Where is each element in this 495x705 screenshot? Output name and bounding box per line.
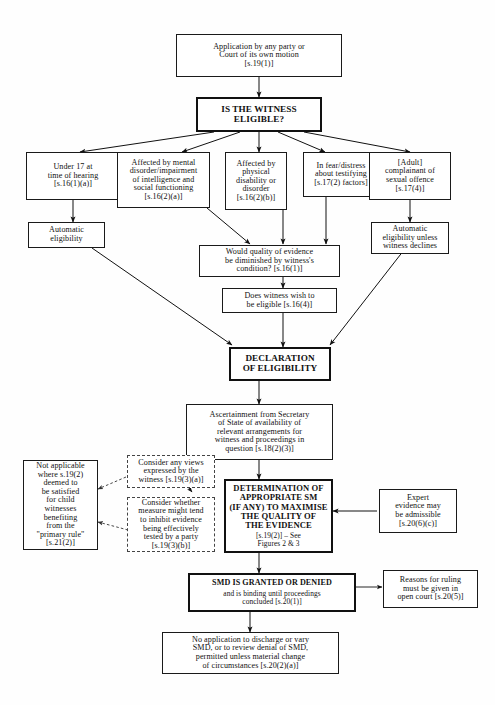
node-determination-label: DETERMINATION OF APPROPRIATE SM (IF ANY)… [224,483,333,531]
node-adult-complainant: [Adult] complainant of sexual offence [s… [369,152,451,200]
node-expert-evidence-label: Expert evidence may be admissible [s.20(… [380,493,456,529]
flowchart-canvas: Application by any party or Court of its… [0,0,495,705]
node-witness-wish-label: Does witness wish to be eligible [s.16(4… [223,291,336,310]
node-physical-disability-label: Affected by physical disability or disor… [226,159,286,204]
node-determination: DETERMINATION OF APPROPRIATE SM (IF ANY)… [224,479,333,553]
node-consider-measure: Consider whether measure might tend to i… [127,497,215,552]
node-automatic-eligibility: Automatic eligibility [28,222,105,248]
node-determination-sublabel: [s.19(2)] – See Figures 2 & 3 [224,531,333,549]
node-reasons-for-ruling: Reasons for ruling must be given in open… [383,570,478,608]
node-not-applicable: Not applicable where s.19(2) deemed to b… [23,460,98,550]
node-mental-disorder-label: Affected by mental disorder/impairment o… [118,158,209,203]
node-no-application: No application to discharge or vary SMD,… [162,632,339,674]
node-physical-disability: Affected by physical disability or disor… [225,152,287,210]
node-fear-distress-label: In fear/distress about testifying [s.17(… [304,161,378,189]
node-automatic-unless-declines-label: Automatic eligibility unless witness dec… [372,224,448,252]
node-application: Application by any party or Court of its… [176,34,342,77]
node-smd-granted-label: SMD IS GRANTED OR DENIED [188,578,356,589]
node-consider-views-label: Consider any views expressed by the witn… [128,458,214,486]
node-automatic-eligibility-label: Automatic eligibility [29,225,104,244]
node-reasons-for-ruling-label: Reasons for ruling must be given in open… [384,575,477,603]
node-witness-wish: Does witness wish to be eligible [s.16(4… [222,288,337,313]
node-under-17: Under 17 at time of hearing [s.16(1)(a)] [26,152,120,200]
node-ascertainment: Ascertainment from Secretary of State of… [186,404,333,460]
node-mental-disorder: Affected by mental disorder/impairment o… [117,152,210,208]
node-smd-granted-sublabel: and is binding until proceedings conclud… [188,589,356,607]
node-quality-diminished: Would quality of evidence be diminished … [199,245,340,277]
node-fear-distress: In fear/distress about testifying [s.17(… [303,152,379,197]
node-not-applicable-label: Not applicable where s.19(2) deemed to b… [24,461,97,549]
node-application-label: Application by any party or Court of its… [177,42,341,70]
node-consider-measure-label: Consider whether measure might tend to i… [128,498,214,551]
node-under-17-label: Under 17 at time of hearing [s.16(1)(a)] [27,162,119,190]
node-smd-granted: SMD IS GRANTED OR DENIED and is binding … [188,573,356,612]
node-automatic-unless-declines: Automatic eligibility unless witness dec… [371,222,449,254]
node-is-witness-eligible-label: IS THE WITNESS ELIGIBLE? [198,104,320,126]
node-consider-views: Consider any views expressed by the witn… [127,455,215,488]
node-no-application-label: No application to discharge or vary SMD,… [163,635,338,671]
node-ascertainment-label: Ascertainment from Secretary of State of… [187,410,332,455]
node-adult-complainant-label: [Adult] complainant of sexual offence [s… [370,158,450,194]
node-is-witness-eligible: IS THE WITNESS ELIGIBLE? [196,97,322,132]
node-declaration-of-eligibility: DECLARATION OF ELIGIBILITY [229,347,331,381]
node-expert-evidence: Expert evidence may be admissible [s.20(… [379,489,457,533]
node-quality-diminished-label: Would quality of evidence be diminished … [200,247,339,275]
node-declaration-of-eligibility-label: DECLARATION OF ELIGIBILITY [231,353,329,375]
